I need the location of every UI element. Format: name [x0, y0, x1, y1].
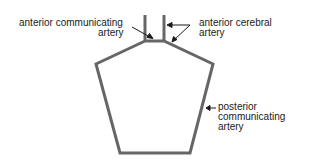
- aca-pointer-arrow-lower: [174, 25, 190, 40]
- vessel-ring: [96, 41, 213, 153]
- pcomm-arrowhead: [206, 106, 210, 111]
- aca-label-line2: artery: [199, 28, 225, 38]
- acomm-label-line2: artery: [98, 28, 124, 38]
- acomm-arrowhead: [147, 34, 153, 39]
- acomm-pointer-arrow: [132, 27, 150, 37]
- pcomm-label-line3: artery: [218, 122, 244, 132]
- aca-arrowhead-upper: [167, 23, 172, 28]
